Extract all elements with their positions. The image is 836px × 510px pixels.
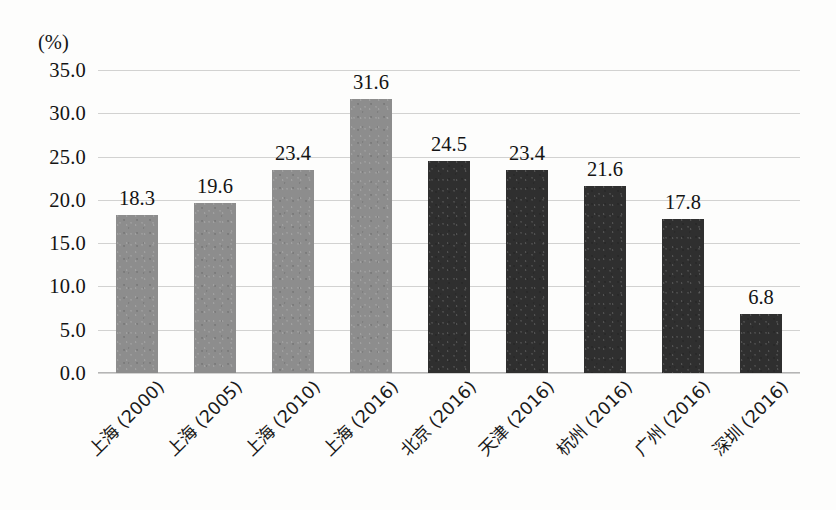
bar-slot: 19.6 — [194, 70, 237, 373]
bar-slot: 31.6 — [350, 70, 393, 373]
bar[interactable] — [584, 186, 627, 373]
bar[interactable] — [428, 161, 471, 373]
y-axis-tick-label: 10.0 — [49, 275, 86, 298]
bar-slot: 23.4 — [272, 70, 315, 373]
x-axis-category-label: 深圳 (2016) — [706, 374, 793, 461]
x-axis-category-label: 上海 (2005) — [160, 374, 247, 461]
y-axis-unit-label: (%) — [38, 31, 69, 54]
bar-series: 18.319.623.431.624.523.421.617.86.8 — [98, 70, 800, 373]
bar-value-label: 24.5 — [431, 133, 467, 156]
bar-slot: 21.6 — [584, 70, 627, 373]
y-axis-tick-label: 35.0 — [49, 59, 86, 82]
x-axis-category-label: 天津 (2016) — [472, 374, 559, 461]
bar-value-label: 19.6 — [197, 175, 233, 198]
x-axis-category-label: 上海 (2000) — [82, 374, 169, 461]
y-axis-tick-label: 25.0 — [49, 145, 86, 168]
bar[interactable] — [506, 170, 549, 373]
x-axis-category-label: 广州 (2016) — [628, 374, 715, 461]
x-axis-category-label: 杭州 (2016) — [550, 374, 637, 461]
bar-value-label: 31.6 — [353, 71, 389, 94]
gridline — [98, 373, 800, 374]
y-axis-tick-label: 20.0 — [49, 188, 86, 211]
bar[interactable] — [116, 215, 159, 373]
bar-value-label: 17.8 — [665, 191, 701, 214]
bar[interactable] — [272, 170, 315, 373]
y-axis-tick-label: 30.0 — [49, 102, 86, 125]
y-axis-tick-label: 15.0 — [49, 232, 86, 255]
y-axis-tick-label: 5.0 — [60, 318, 86, 341]
bar-chart: (%) 0.05.010.015.020.025.030.035.0 18.31… — [0, 0, 836, 510]
bar-slot: 17.8 — [662, 70, 705, 373]
bar-value-label: 21.6 — [587, 158, 623, 181]
x-axis-category-label: 上海 (2016) — [316, 374, 403, 461]
bar[interactable] — [662, 219, 705, 373]
bar-value-label: 23.4 — [509, 142, 545, 165]
bar-value-label: 18.3 — [119, 187, 155, 210]
bar[interactable] — [194, 203, 237, 373]
bar[interactable] — [350, 99, 393, 373]
bar-slot: 6.8 — [740, 70, 783, 373]
y-axis-tick-label: 0.0 — [60, 362, 86, 385]
bar-slot: 24.5 — [428, 70, 471, 373]
bar[interactable] — [740, 314, 783, 373]
x-axis-category-label: 上海 (2010) — [238, 374, 325, 461]
plot-area: 0.05.010.015.020.025.030.035.0 18.319.62… — [98, 70, 800, 373]
x-axis-category-labels: 上海 (2000)上海 (2005)上海 (2010)上海 (2016)北京 (… — [98, 378, 800, 508]
x-axis-category-label: 北京 (2016) — [394, 374, 481, 461]
bar-value-label: 6.8 — [748, 286, 774, 309]
bar-slot: 18.3 — [116, 70, 159, 373]
bar-slot: 23.4 — [506, 70, 549, 373]
bar-value-label: 23.4 — [275, 142, 311, 165]
